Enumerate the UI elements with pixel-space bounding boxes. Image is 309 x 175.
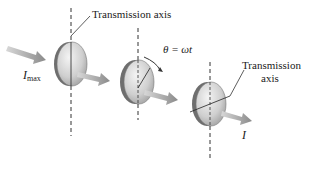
polarizer-1 bbox=[54, 8, 90, 136]
polarizer-2 bbox=[120, 28, 163, 120]
transmission-axis-label-top: Transmission axis bbox=[92, 8, 171, 20]
angle-label: θ = ωt bbox=[163, 43, 193, 55]
i-max-label: Imax bbox=[22, 68, 41, 83]
outgoing-light-arrow bbox=[221, 111, 252, 125]
transmission-axis-label-right-1: Transmission bbox=[242, 59, 301, 71]
transmission-axis-label-right-2: axis bbox=[261, 72, 279, 84]
incoming-light-arrow bbox=[6, 46, 46, 64]
polarizer-diagram: Transmission axis θ = ωt Transmission ax… bbox=[0, 0, 309, 175]
i-output-label: I bbox=[241, 128, 247, 142]
polarizer-3 bbox=[190, 62, 244, 160]
